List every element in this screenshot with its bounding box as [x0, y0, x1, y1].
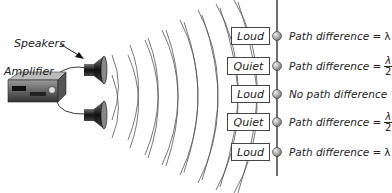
half-lambda-fraction: λ 2: [384, 112, 392, 133]
speakers-label: Speakers: [14, 38, 65, 49]
speaker-top-icon: [84, 56, 107, 84]
state-box-quiet: Quiet: [227, 113, 270, 131]
no-path-difference: No path difference: [289, 85, 387, 103]
state-box-loud: Loud: [231, 27, 270, 45]
path-difference-half-lambda: Path difference = λ 2: [289, 113, 392, 131]
half-lambda-fraction: λ 2: [384, 56, 392, 77]
state-box-quiet: Quiet: [227, 57, 270, 75]
path-difference-lambda: Path difference = λ: [289, 143, 391, 161]
amplifier-label: Amplifier: [4, 66, 54, 77]
path-difference-half-lambda: Path difference = λ 2: [289, 57, 392, 75]
state-box-loud: Loud: [231, 143, 270, 161]
path-difference-lambda: Path difference = λ: [289, 27, 391, 45]
state-box-loud: Loud: [231, 85, 270, 103]
speaker-bottom-icon: [84, 101, 107, 129]
